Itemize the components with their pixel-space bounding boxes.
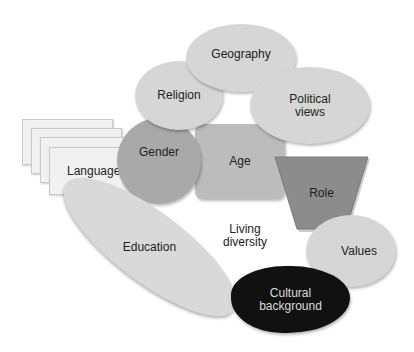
religion-label: Religion bbox=[157, 89, 200, 102]
cultural-background-label-line1: Cultural bbox=[270, 287, 311, 300]
age-label: Age bbox=[229, 155, 250, 168]
cultural-background-node: Cultural background bbox=[231, 266, 350, 333]
gender-node: Gender bbox=[117, 118, 201, 204]
language-label: Language bbox=[67, 164, 120, 178]
education-label: Education bbox=[123, 241, 176, 254]
gender-label: Gender bbox=[139, 146, 179, 159]
cultural-background-label-line2: background bbox=[259, 300, 322, 313]
political-views-label-line1: Political bbox=[289, 93, 330, 106]
role-label: Role bbox=[275, 186, 368, 200]
geography-label: Geography bbox=[211, 48, 270, 61]
political-views-node: Political views bbox=[250, 67, 370, 144]
center-label-line2: diversity bbox=[215, 236, 275, 249]
values-label: Values bbox=[341, 245, 377, 258]
center-label: Living diversity bbox=[215, 223, 275, 249]
political-views-label-line2: views bbox=[295, 106, 325, 119]
